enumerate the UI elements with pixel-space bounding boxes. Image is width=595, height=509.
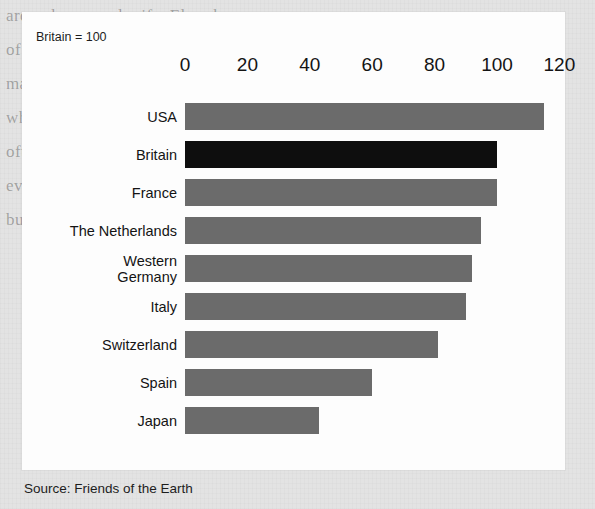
bar-row: France: [22, 174, 565, 212]
axis-tick-label-20: 20: [237, 54, 258, 76]
source-credit: Source: Friends of the Earth: [24, 481, 193, 496]
bar-chart-plot-area: USABritainFranceThe NetherlandsWestern G…: [22, 98, 565, 440]
bar-row: USA: [22, 98, 565, 136]
bar: [185, 255, 472, 282]
bar-row: Italy: [22, 288, 565, 326]
bar: [185, 103, 544, 130]
bar-category-label: The Netherlands: [27, 223, 185, 239]
bar: [185, 369, 372, 396]
bar-row: Britain: [22, 136, 565, 174]
bar-row: Spain: [22, 364, 565, 402]
x-axis-scale: 020406080100120: [22, 54, 565, 80]
bar-category-label: Japan: [27, 413, 185, 429]
bar: [185, 217, 481, 244]
bar-category-label: France: [27, 185, 185, 201]
axis-tick-label-0: 0: [180, 54, 191, 76]
bar-row: Western Germany: [22, 250, 565, 288]
axis-tick-label-80: 80: [424, 54, 445, 76]
bar: [185, 331, 438, 358]
bar-row: Switzerland: [22, 326, 565, 364]
axis-tick-label-40: 40: [299, 54, 320, 76]
axis-tick-label-120: 120: [544, 54, 576, 76]
bar-category-label: Spain: [27, 375, 185, 391]
bar-category-label: USA: [27, 109, 185, 125]
axis-tick-label-100: 100: [481, 54, 513, 76]
bar-category-label: Western Germany: [27, 253, 185, 285]
axis-tick-label-60: 60: [362, 54, 383, 76]
bar: [185, 293, 466, 320]
bar-row: The Netherlands: [22, 212, 565, 250]
bar-highlighted: [185, 141, 497, 168]
chart-panel: Britain = 100 020406080100120 USABritain…: [22, 12, 565, 470]
bar-category-label: Britain: [27, 147, 185, 163]
bar: [185, 407, 319, 434]
normalization-note: Britain = 100: [36, 30, 107, 44]
bar-category-label: Switzerland: [27, 337, 185, 353]
bar: [185, 179, 497, 206]
bar-row: Japan: [22, 402, 565, 440]
bar-category-label: Italy: [27, 299, 185, 315]
